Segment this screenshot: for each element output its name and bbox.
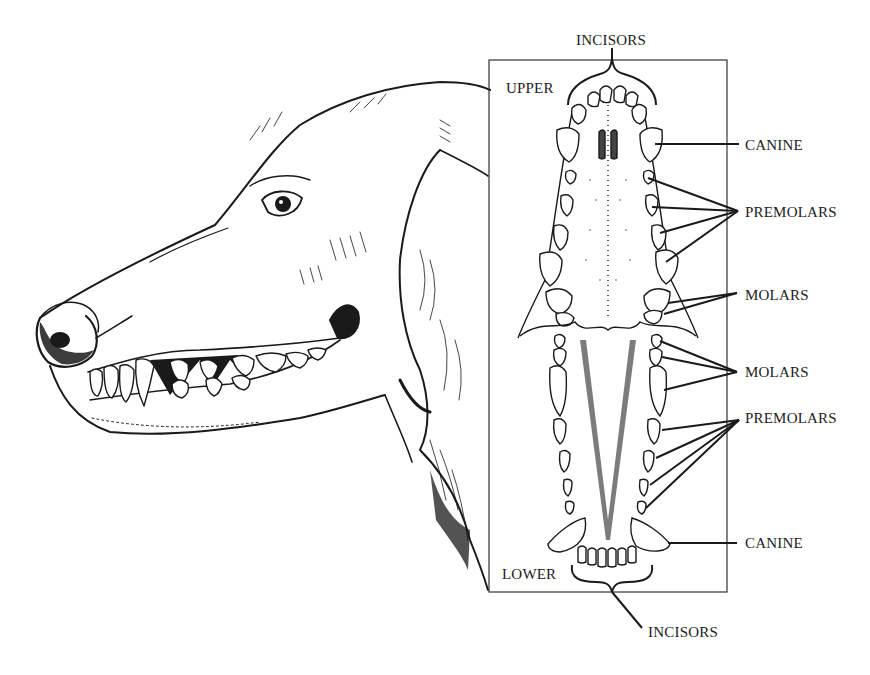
diagram-frame: [489, 60, 727, 592]
label-molars-lower: MOLARS: [745, 364, 809, 381]
label-premolars-lower: PREMOLARS: [745, 410, 837, 427]
mandible-stipple: [580, 340, 636, 540]
dog-head-illustration: [37, 82, 490, 590]
label-upper: UPPER: [506, 80, 554, 97]
label-molars-upper: MOLARS: [745, 287, 809, 304]
label-incisors-lower: INCISORS: [648, 624, 718, 641]
label-canine-upper: CANINE: [745, 137, 803, 154]
upper-jaw-illustration: [518, 86, 698, 338]
label-canine-lower: CANINE: [745, 535, 803, 552]
label-lower: LOWER: [502, 566, 556, 583]
dental-diagram: [0, 0, 870, 675]
label-premolars-upper: PREMOLARS: [745, 204, 837, 221]
label-incisors-upper: INCISORS: [576, 32, 646, 49]
